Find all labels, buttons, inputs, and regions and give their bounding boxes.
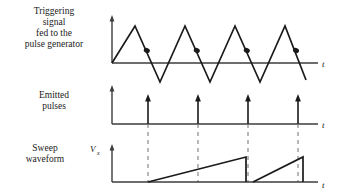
pulse-arrow-icon-3 (245, 94, 251, 102)
pulse-4 (295, 94, 301, 124)
alignment-guides (148, 124, 298, 182)
sawtooth-ramp-2 (253, 157, 303, 182)
y-axis-label-subscript-sweep: x (96, 150, 100, 156)
panel-triggering-signal: t (110, 15, 325, 82)
x-axis-label-pulses: t (322, 120, 325, 130)
pulse-arrow-icon-1 (145, 94, 151, 102)
pulse-arrow-icon-2 (195, 94, 201, 102)
timing-diagram-figure: Triggering signal fed to the pulse gener… (0, 0, 344, 193)
x-axis-label-triggering: t (322, 59, 325, 69)
pulse-arrow-icon-4 (295, 94, 301, 102)
y-axis-arrow-icon-sweep (110, 144, 115, 151)
panel-sweep-waveform: V x t (90, 144, 325, 190)
y-axis-arrow-icon-triggering (110, 15, 115, 22)
pulse-3 (245, 94, 251, 124)
sawtooth-ramp-1 (148, 157, 246, 182)
panel-emitted-pulses: t (110, 85, 325, 130)
triangle-waveform (112, 26, 306, 82)
y-axis-label-sweep: V (90, 144, 97, 154)
y-axis-arrow-icon-pulses (110, 85, 115, 92)
waveform-plots: t t (0, 0, 344, 193)
pulse-1 (145, 94, 151, 124)
pulse-2 (195, 94, 201, 124)
x-axis-label-sweep: t (322, 180, 325, 190)
